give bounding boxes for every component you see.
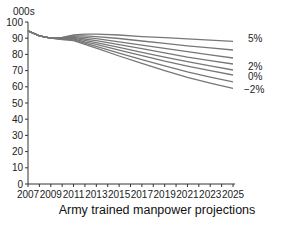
x-tick-label: 2007 bbox=[17, 189, 40, 200]
x-tick-label: 2025 bbox=[222, 189, 245, 200]
x-tick-label: 2019 bbox=[154, 189, 177, 200]
series-lines bbox=[28, 31, 233, 89]
y-tick-label: 60 bbox=[12, 81, 24, 92]
y-tick-label: 0 bbox=[17, 179, 23, 190]
series-label-5pct: 5% bbox=[248, 33, 263, 44]
y-unit-label: 000s bbox=[13, 6, 35, 17]
y-tick-label: 40 bbox=[12, 114, 24, 125]
series-line bbox=[28, 31, 233, 70]
y-tick-label: 10 bbox=[12, 162, 24, 173]
x-tick-label: 2023 bbox=[199, 189, 222, 200]
x-tick-label: 2015 bbox=[108, 189, 131, 200]
y-tick-label: 20 bbox=[12, 146, 24, 157]
series-label-0pct: 0% bbox=[248, 71, 263, 82]
y-axis: 0102030405060708090100 bbox=[6, 17, 28, 190]
series-line bbox=[28, 31, 233, 58]
x-tick-label: 2021 bbox=[176, 189, 199, 200]
y-tick-label: 70 bbox=[12, 65, 24, 76]
y-tick-label: 90 bbox=[12, 33, 24, 44]
x-tick-label: 2013 bbox=[85, 189, 108, 200]
chart-title: Army trained manpower projections bbox=[59, 203, 256, 217]
x-axis: 2007200920112013201520172019202120232025 bbox=[17, 184, 245, 200]
x-tick-label: 2017 bbox=[131, 189, 154, 200]
x-tick-label: 2009 bbox=[40, 189, 63, 200]
y-tick-label: 30 bbox=[12, 130, 24, 141]
series-label-minus2pct: −2% bbox=[244, 84, 264, 95]
y-tick-label: 80 bbox=[12, 49, 24, 60]
y-tick-label: 100 bbox=[6, 17, 23, 28]
y-tick-label: 50 bbox=[12, 98, 24, 109]
series-labels: 5% 2% 0% −2% bbox=[244, 33, 264, 95]
line-chart: 000s 0102030405060708090100 200720092011… bbox=[0, 0, 287, 227]
x-tick-label: 2011 bbox=[63, 189, 85, 200]
